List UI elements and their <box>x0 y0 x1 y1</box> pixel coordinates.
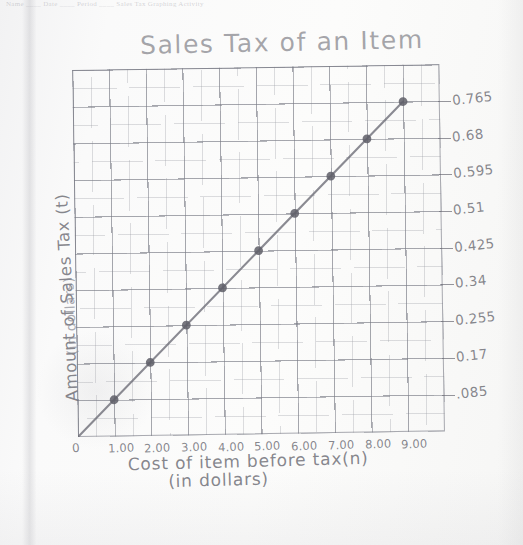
y-tick-label: 0.17 <box>455 345 488 364</box>
series-line <box>73 102 408 437</box>
printed-worksheet-header: Name ____ Date ____ Period ____ Sales Ta… <box>6 0 266 8</box>
y-axis-title-wrap: Amount of Sales Tax (t) (in dollars) <box>22 180 82 430</box>
y-tick-label: 0.68 <box>452 125 485 144</box>
origin-label: 0 <box>72 441 81 455</box>
y-tick-mark <box>441 284 454 285</box>
y-tick-mark <box>441 321 454 322</box>
plot-area <box>72 64 445 437</box>
y-tick-mark <box>438 138 451 139</box>
x-tick-label: 9.00 <box>401 436 428 451</box>
y-tick-mark <box>439 211 452 212</box>
chart-title: Sales Tax of an Item <box>140 25 424 60</box>
y-tick-mark <box>442 395 455 396</box>
y-tick-mark <box>438 101 451 102</box>
y-tick-label: .085 <box>456 382 489 401</box>
data-series-svg <box>72 64 445 437</box>
y-tick-mark <box>442 358 455 359</box>
paper-edge-right <box>498 0 523 545</box>
y-tick-mark <box>440 248 453 249</box>
x-axis-title: Cost of item before tax(n) (in dollars) <box>128 449 370 492</box>
y-tick-mark <box>439 174 452 175</box>
series-line-group <box>73 97 413 437</box>
